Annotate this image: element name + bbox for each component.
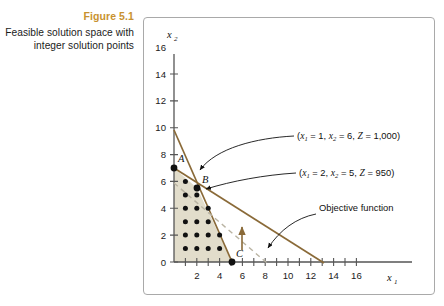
vertex-point-c [229,259,236,266]
svg-text:2: 2 [194,270,199,281]
svg-text:6: 6 [161,176,166,187]
y-axis-title: x 2 [166,29,178,43]
svg-text:8: 8 [161,149,166,160]
plot-svg: 0 2 4 6 8 10 12 14 16 [144,18,434,294]
svg-text:12: 12 [155,95,166,106]
vertex-label-b: B [202,174,209,185]
figure-description: Feasible solution space with integer sol… [0,26,134,52]
vertex-point-a [171,165,178,172]
leader-line-1 [200,136,294,170]
svg-text:12: 12 [305,270,316,281]
svg-text:10: 10 [155,122,166,133]
vertex-point-b [194,185,201,192]
svg-text:8: 8 [263,270,268,281]
anno2-end: = 950) [365,167,394,178]
svg-text:14: 14 [155,69,166,80]
svg-text:4: 4 [161,203,167,214]
figure-root: Figure 5.1 Feasible solution space with … [0,0,444,306]
x-tick-labels: 2 4 6 8 10 12 14 16 [194,270,362,281]
y-tick-label-16: 16 [155,42,166,53]
svg-text:6: 6 [240,270,245,281]
svg-text:x: x [166,29,172,40]
anno1-end: = 1,000) [363,130,400,141]
svg-text:10: 10 [283,270,294,281]
svg-text:2: 2 [161,230,166,241]
svg-text:16: 16 [351,270,362,281]
svg-text:1: 1 [394,278,398,286]
figure-number: Figure 5.1 [0,10,134,23]
svg-text:x: x [386,272,392,283]
vertex-label-a: A [177,153,185,164]
svg-text:14: 14 [328,270,339,281]
leader-line-2 [206,173,296,189]
objective-function-label: Objective function [319,202,394,213]
svg-text:0: 0 [161,257,166,268]
anno1-mid1: = 1, [308,130,329,141]
anno1-mid2: = 6, [336,130,357,141]
svg-text:2: 2 [174,35,178,43]
anno2-mid2: = 5, [338,167,359,178]
svg-text:(x1 = 2, x2 = 5, Z = 950): (x1 = 2, x2 = 5, Z = 950) [299,167,394,179]
x-axis-title: x 1 [386,272,398,286]
annotation-optimal-integer-point: (x1 = 1, x2 = 6, Z = 1,000) [297,130,400,142]
annotation-second-integer-point: (x1 = 2, x2 = 5, Z = 950) [299,167,394,179]
figure-caption: Figure 5.1 Feasible solution space with … [0,10,134,53]
y-tick-labels: 0 2 4 6 8 10 12 14 [155,69,166,268]
anno2-mid1: = 2, [310,167,331,178]
vertex-label-c: C [236,248,244,259]
svg-text:(x1 = 1, x2 = 6, Z = 1,000): (x1 = 1, x2 = 6, Z = 1,000) [297,130,400,142]
svg-text:4: 4 [217,270,223,281]
figure-panel: 0 2 4 6 8 10 12 14 16 [143,17,435,295]
